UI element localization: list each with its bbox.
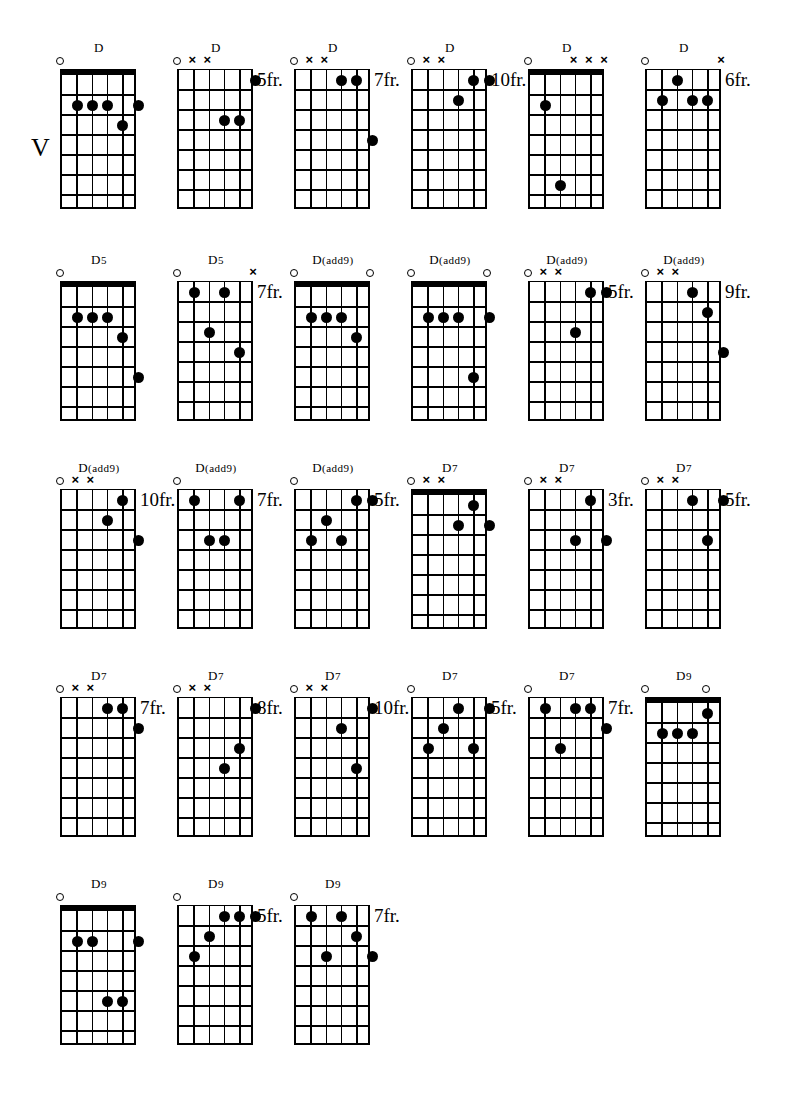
fret-position-label: 5fr. xyxy=(257,70,283,89)
finger-dot xyxy=(336,75,347,86)
fretboard-grid xyxy=(294,697,370,837)
finger-dot xyxy=(219,115,230,126)
finger-dot xyxy=(555,743,566,754)
string-markers xyxy=(60,684,138,697)
fret-line xyxy=(647,569,719,571)
string-markers xyxy=(60,476,138,489)
chord-diagram: D57fr. xyxy=(177,252,297,442)
fret-line xyxy=(179,109,251,111)
muted-string-icon xyxy=(304,57,314,67)
fret-line xyxy=(62,990,134,992)
muted-string-icon xyxy=(569,57,579,67)
finger-dot xyxy=(306,535,317,546)
chord-diagram: D78fr. xyxy=(177,668,297,858)
finger-dot xyxy=(453,703,464,714)
fretboard-grid xyxy=(294,69,370,209)
fret-line xyxy=(647,381,719,383)
fret-line xyxy=(179,757,251,759)
open-string-icon xyxy=(56,685,64,693)
fret-line xyxy=(62,930,134,932)
finger-dot xyxy=(234,347,245,358)
open-string-icon xyxy=(173,57,181,65)
fret-position-label: 7fr. xyxy=(257,490,283,509)
fret-position-label: 3fr. xyxy=(608,490,634,509)
fret-line xyxy=(530,194,602,196)
open-string-icon xyxy=(56,893,64,901)
fret-line xyxy=(179,737,251,739)
fretboard-grid xyxy=(645,697,721,837)
fret-line xyxy=(62,970,134,972)
fret-line xyxy=(62,386,134,388)
fret-line xyxy=(530,589,602,591)
finger-dot xyxy=(321,312,332,323)
fret-line xyxy=(296,569,368,571)
fret-line xyxy=(179,89,251,91)
fret-line xyxy=(179,381,251,383)
string-markers xyxy=(411,268,489,281)
fret-line xyxy=(647,509,719,511)
chord-chart-sheet: VDD5fr.D7fr.D10fr.DD6fr.D5D57fr.D(add9)D… xyxy=(0,0,788,1111)
chord-diagram: D(add9) xyxy=(411,252,531,442)
muted-string-icon xyxy=(670,269,680,279)
finger-dot xyxy=(219,535,230,546)
fret-line xyxy=(62,306,134,308)
finger-dot xyxy=(453,520,464,531)
fret-line xyxy=(413,594,485,596)
finger-dot xyxy=(102,996,113,1007)
fret-line xyxy=(647,742,719,744)
finger-dot xyxy=(540,100,551,111)
finger-dot xyxy=(585,495,596,506)
fret-line xyxy=(413,326,485,328)
muted-string-icon xyxy=(538,477,548,487)
muted-string-icon xyxy=(70,685,80,695)
chord-name-suffix: 9 xyxy=(218,878,224,890)
fret-line xyxy=(296,129,368,131)
fret-line xyxy=(647,321,719,323)
chord-diagram: D7fr. xyxy=(294,40,414,230)
chord-name-suffix: 9 xyxy=(335,878,341,890)
fret-line xyxy=(179,149,251,151)
muted-string-icon xyxy=(319,57,329,67)
fret-line xyxy=(62,797,134,799)
open-string-icon xyxy=(641,269,649,277)
fret-line xyxy=(62,609,134,611)
fret-line xyxy=(179,401,251,403)
fret-line xyxy=(530,341,602,343)
string-markers xyxy=(177,56,255,69)
chord-name-suffix: 7 xyxy=(452,670,458,682)
finger-dot xyxy=(484,520,495,531)
fret-line xyxy=(413,306,485,308)
fret-line xyxy=(530,757,602,759)
string-markers xyxy=(294,476,372,489)
fretboard-grid xyxy=(528,281,604,421)
fret-line xyxy=(647,341,719,343)
fret-line xyxy=(296,965,368,967)
chord-diagram: D77fr. xyxy=(528,668,648,858)
fret-position-label: 10fr. xyxy=(491,70,526,89)
chord-name: D(add9) xyxy=(411,252,489,268)
fret-line xyxy=(530,737,602,739)
fret-line xyxy=(413,406,485,408)
finger-dot xyxy=(351,495,362,506)
chord-diagram: D xyxy=(60,40,180,230)
finger-dot xyxy=(687,495,698,506)
fret-position-label: 7fr. xyxy=(374,906,400,925)
fret-line xyxy=(647,169,719,171)
muted-string-icon xyxy=(70,477,80,487)
finger-dot xyxy=(601,723,612,734)
finger-dot xyxy=(585,287,596,298)
fretboard-grid xyxy=(294,281,370,421)
chord-diagram: D xyxy=(528,40,648,230)
fretboard-grid xyxy=(645,489,721,629)
fret-line xyxy=(530,549,602,551)
muted-string-icon xyxy=(538,269,548,279)
finger-dot xyxy=(555,180,566,191)
fret-line xyxy=(296,797,368,799)
string-markers xyxy=(294,56,372,69)
chord-name: D xyxy=(528,40,606,56)
fret-line xyxy=(530,401,602,403)
finger-dot xyxy=(657,728,668,739)
fret-line xyxy=(413,534,485,536)
open-string-icon xyxy=(290,685,298,693)
finger-dot xyxy=(117,495,128,506)
